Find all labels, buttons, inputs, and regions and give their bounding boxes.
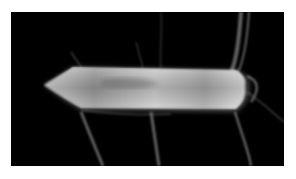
smoky-arrow-image [11, 12, 284, 166]
photo-frame [11, 12, 284, 166]
